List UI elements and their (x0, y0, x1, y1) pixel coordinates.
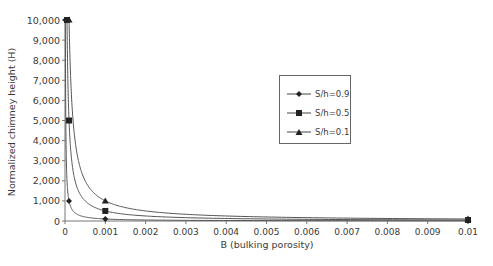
triangle-marker-icon (286, 127, 312, 137)
x-tick-label: 0 (62, 227, 68, 237)
x-tick-label: 0.01 (458, 227, 478, 237)
legend-label: S/h=0.1 (315, 127, 349, 137)
legend-label: S/h=0.9 (315, 89, 349, 99)
x-tick-label: 0.003 (173, 227, 199, 237)
x-axis-ticks: 00.0010.0020.0030.0040.0050.0060.0070.00… (62, 221, 478, 237)
y-tick-label: 7,000 (33, 75, 60, 86)
y-tick-label: 0 (54, 216, 60, 227)
x-tick-label: 0.002 (133, 227, 159, 237)
data-point-marker (66, 118, 72, 124)
x-tick-label: 0.008 (375, 227, 401, 237)
legend: S/h=0.9 S/h=0.5 S/h=0.1 (279, 75, 351, 144)
square-marker-icon (286, 108, 312, 118)
legend-item: S/h=0.1 (286, 125, 349, 139)
legend-label: S/h=0.5 (315, 108, 349, 118)
legend-item: S/h=0.9 (286, 87, 349, 101)
chart: 01,0002,0003,0004,0005,0006,0007,0008,00… (0, 0, 493, 266)
y-tick-label: 5,000 (33, 115, 60, 126)
x-tick-label: 0.001 (92, 227, 118, 237)
x-tick-label: 0.009 (415, 227, 441, 237)
x-tick-label: 0.005 (254, 227, 280, 237)
x-tick-label: 0.006 (294, 227, 320, 237)
y-tick-label: 3,000 (33, 155, 60, 166)
y-tick-label: 9,000 (33, 35, 60, 46)
series-lines (62, 17, 471, 224)
y-tick-label: 10,000 (27, 15, 60, 26)
data-point-marker (66, 198, 72, 204)
data-point-marker (102, 208, 108, 214)
y-tick-label: 8,000 (33, 55, 60, 66)
legend-item: S/h=0.5 (286, 106, 349, 120)
y-axis-label: Normalized chimney height (H) (6, 48, 17, 196)
series-line (67, 20, 468, 220)
x-axis-label: B (bulking porosity) (220, 239, 313, 250)
x-tick-label: 0.004 (213, 227, 239, 237)
y-axis-ticks: 01,0002,0003,0004,0005,0006,0007,0008,00… (27, 15, 65, 227)
y-tick-label: 1,000 (33, 195, 60, 206)
x-tick-label: 0.007 (334, 227, 360, 237)
y-tick-label: 4,000 (33, 135, 60, 146)
series-line (69, 20, 468, 219)
series-line (65, 20, 468, 221)
data-point-marker (102, 197, 109, 203)
diamond-marker-icon (286, 89, 312, 99)
y-tick-label: 6,000 (33, 95, 60, 106)
y-tick-label: 2,000 (33, 175, 60, 186)
